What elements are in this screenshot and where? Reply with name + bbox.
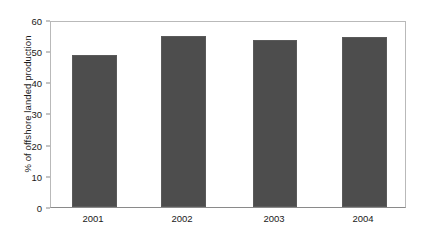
y-tick-label-50: 50 [20, 47, 46, 58]
y-tick-label-60: 60 [20, 16, 46, 27]
bar-2001 [72, 55, 117, 207]
y-tick-label-10: 10 [20, 172, 46, 183]
y-tick-label-40: 40 [20, 78, 46, 89]
x-tick-label-2004: 2004 [352, 213, 373, 224]
y-tick-label-20: 20 [20, 141, 46, 152]
y-tick-label-0: 0 [20, 203, 46, 214]
x-tick-label-2003: 2003 [263, 213, 284, 224]
bar-2002 [161, 36, 206, 207]
bar-chart-figure: % of offshore landed production 0 10 20 … [0, 0, 423, 240]
plot-area [50, 21, 406, 208]
bar-2004 [342, 37, 387, 207]
x-tick-label-2002: 2002 [171, 213, 192, 224]
bar-2003 [253, 40, 297, 207]
y-axis-tick-labels: 0 10 20 30 40 50 60 [20, 0, 46, 240]
x-tick-label-2001: 2001 [82, 213, 103, 224]
y-tick-label-30: 30 [20, 109, 46, 120]
